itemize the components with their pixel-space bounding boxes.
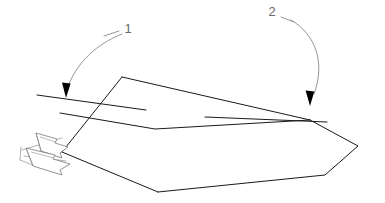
figure-canvas: 1 2 — [0, 0, 385, 203]
callout-2-label: 2 — [268, 4, 275, 19]
callout-1-label: 1 — [124, 21, 131, 36]
technical-figure: 1 2 — [0, 0, 385, 203]
